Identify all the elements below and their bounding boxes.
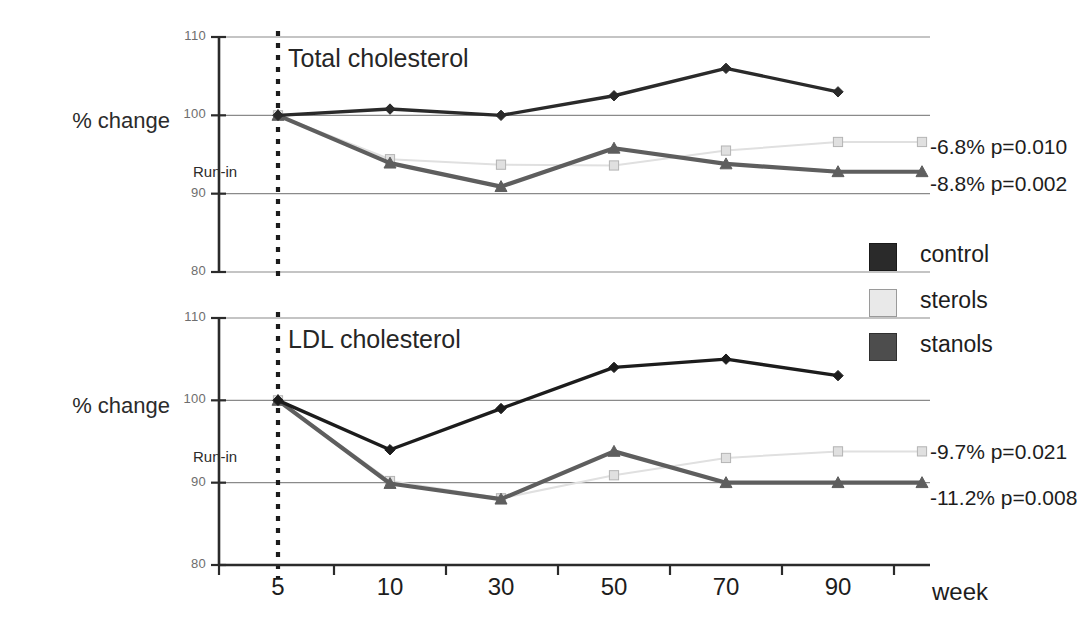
y-tick-label-90: 90: [160, 474, 206, 489]
y-tick-label-90: 90: [160, 185, 206, 200]
y-tick-label-80: 80: [160, 263, 206, 278]
data-point-marker-diamond: [609, 362, 619, 372]
data-point-marker-diamond: [496, 403, 506, 413]
panel-title-ldl-cholesterol: LDL cholesterol: [288, 325, 461, 354]
x-tick-label-90: 90: [798, 573, 878, 601]
x-tick-label-30: 30: [461, 573, 541, 601]
y-tick-label-110: 110: [160, 309, 206, 324]
series-line-control: [278, 359, 838, 450]
annotation-sterols-bottom: -9.7% p=0.021: [930, 440, 1067, 464]
data-point-marker-diamond: [721, 354, 731, 364]
run-in-label-bottom: Run-in: [193, 448, 237, 465]
data-point-marker-square: [917, 447, 926, 456]
y-tick-label-100: 100: [160, 106, 206, 121]
y-axis-label-bottom: % change: [40, 393, 170, 419]
data-point-marker-square: [833, 447, 842, 456]
y-tick-label-100: 100: [160, 391, 206, 406]
x-tick-label-10: 10: [350, 573, 430, 601]
y-tick-label-110: 110: [160, 28, 206, 43]
y-tick-label-80: 80: [160, 556, 206, 571]
annotation-stanols-bottom: -11.2% p=0.008: [930, 486, 1077, 510]
x-axis-label: week: [932, 578, 988, 606]
data-point-marker-square: [721, 453, 730, 462]
data-point-marker-diamond: [833, 370, 843, 380]
data-point-marker-diamond: [385, 445, 395, 455]
x-tick-label-70: 70: [686, 573, 766, 601]
series-line-stanols: [278, 400, 838, 499]
x-tick-label-50: 50: [574, 573, 654, 601]
data-point-marker-square: [609, 471, 618, 480]
x-tick-label-5: 5: [238, 573, 318, 601]
